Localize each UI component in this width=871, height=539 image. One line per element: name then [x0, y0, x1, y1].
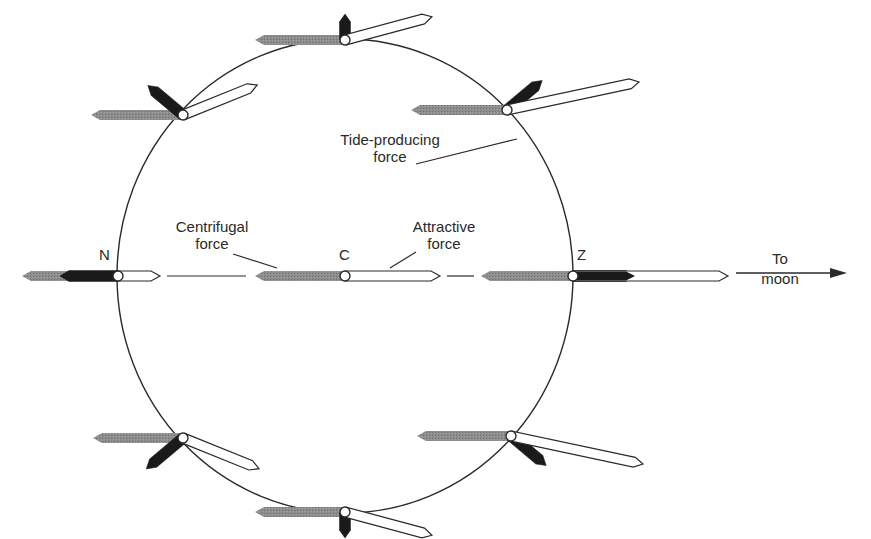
attractive-force-arrow	[118, 271, 160, 281]
attractive-leader	[390, 252, 416, 268]
diagram-canvas	[0, 0, 871, 539]
point-label-n: N	[99, 246, 110, 263]
point-marker	[178, 433, 188, 443]
tide-force-diagram: N C Z Centrifugal force Attractive force…	[0, 0, 871, 539]
centrifugal-force-arrow	[91, 110, 183, 120]
point-marker	[506, 431, 516, 441]
centrifugal-force-label: Centrifugal force	[160, 218, 264, 252]
point-marker	[178, 110, 188, 120]
vector-set-upper-left	[91, 84, 257, 120]
centrifugal-force-arrow	[481, 271, 573, 281]
vector-set-lower-right	[417, 431, 643, 467]
centrifugal-force-arrow	[255, 35, 345, 45]
centrifugal-force-arrow	[411, 105, 507, 115]
vector-set-Z	[481, 271, 728, 282]
attractive-force-arrow	[344, 507, 432, 538]
point-marker	[568, 271, 578, 281]
centrifugal-label-line2: force	[160, 235, 264, 252]
to-moon-label: To moon	[752, 250, 808, 287]
centrifugal-label-line1: Centrifugal	[160, 218, 264, 235]
attractive-force-arrow	[181, 84, 257, 120]
point-marker	[113, 271, 123, 281]
vector-set-C	[255, 271, 440, 281]
centrifugal-force-arrow	[255, 507, 345, 517]
vector-set-upper-right	[411, 79, 639, 115]
tide-producing-force-label: Tide-producing force	[324, 131, 456, 165]
centrifugal-leader	[233, 254, 277, 268]
attractive-force-label: Attractive force	[402, 218, 486, 252]
point-marker	[340, 35, 350, 45]
centrifugal-force-arrow	[93, 433, 183, 443]
tide-producing-force-arrow-overlay	[60, 272, 118, 281]
vector-set-lower-left	[93, 433, 259, 470]
attractive-label-line2: force	[402, 235, 486, 252]
vector-set-top	[255, 14, 432, 45]
tide-producing-force-arrow-overlay	[573, 272, 635, 281]
tide-label-line2: force	[324, 148, 456, 165]
point-label-z: Z	[577, 246, 586, 263]
moon-label-line1: To	[752, 250, 808, 267]
point-marker	[502, 105, 512, 115]
point-marker	[340, 271, 350, 281]
attractive-force-arrow	[345, 271, 440, 281]
point-marker	[340, 507, 350, 517]
centrifugal-force-arrow	[417, 431, 511, 441]
centrifugal-force-arrow	[255, 271, 345, 281]
attractive-force-arrow	[344, 14, 432, 45]
attractive-label-line1: Attractive	[402, 218, 486, 235]
point-label-c: C	[339, 246, 350, 263]
vector-set-bottom	[255, 507, 432, 538]
tide-label-line1: Tide-producing	[324, 131, 456, 148]
moon-arrow-head-icon	[830, 268, 847, 278]
moon-label-line2: moon	[752, 270, 808, 287]
force-vectors	[22, 14, 728, 538]
vector-set-N	[22, 271, 160, 282]
